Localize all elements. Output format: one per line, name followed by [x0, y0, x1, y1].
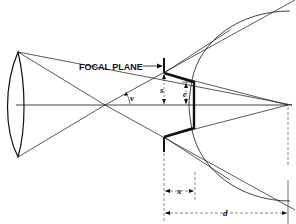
tangent-upper: [164, 30, 230, 73]
diagram-canvas: FOCAL PLANE v s c x d: [0, 0, 296, 224]
envelope-curve: [189, 11, 290, 201]
ray-lower-converge: [18, 105, 105, 157]
arrowhead-icon: [165, 189, 170, 193]
arrowhead-icon: [162, 99, 166, 104]
ray-upper-diverge: [105, 0, 295, 105]
lens-icon: [8, 52, 25, 157]
tangent-lower: [164, 137, 230, 180]
angle-label: v: [130, 93, 135, 103]
s-label: s: [159, 85, 164, 95]
arrowhead-icon: [184, 99, 188, 104]
d-label: d: [223, 208, 228, 218]
c-label: c: [183, 89, 187, 99]
arrowhead-icon: [184, 83, 188, 88]
ray-upper-converge: [18, 52, 105, 105]
ray-lower-diverge: [105, 105, 295, 210]
arrowhead-icon: [282, 211, 287, 215]
arrowhead-icon: [162, 74, 166, 79]
x-label: x: [176, 186, 182, 196]
arrowhead-icon: [157, 64, 163, 69]
arrowhead-icon: [189, 189, 194, 193]
optics-diagram: FOCAL PLANE v s c x d: [0, 0, 296, 224]
ray-top: [18, 52, 292, 105]
arrowhead-icon: [165, 211, 170, 215]
focal-plane-label: FOCAL PLANE: [79, 62, 143, 72]
